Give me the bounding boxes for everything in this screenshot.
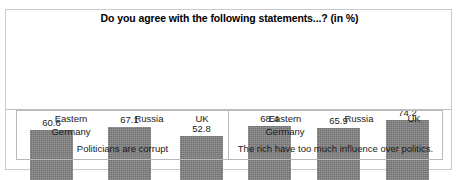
statement-label-rich-influence: The rich have too much influence over po… (229, 143, 442, 154)
category-table: Eastern Germany Russia UK Politicians ar… (16, 110, 443, 160)
table-half-rich-influence: Eastern Germany Russia UK The rich have … (229, 111, 442, 159)
country-label-line2: Germany (245, 126, 325, 139)
country-label-line1: UK (389, 113, 439, 126)
country-label-line1: Eastern (245, 113, 325, 126)
country-cell-uk: UK (389, 113, 439, 139)
country-label-row: Eastern Germany Russia UK (17, 113, 228, 139)
country-cell-uk: UK (177, 113, 227, 139)
statement-label-politicians: Politicians are corrupt (17, 143, 228, 154)
country-cell-russia: Russia (319, 113, 399, 139)
table-half-politicians: Eastern Germany Russia UK Politicians ar… (17, 111, 229, 159)
country-cell-eastern-germany: Eastern Germany (245, 113, 325, 139)
country-label-line2: Germany (31, 126, 111, 139)
country-label-line1: UK (177, 113, 227, 126)
country-label-row: Eastern Germany Russia UK (229, 113, 442, 139)
country-label-line1: Russia (319, 113, 399, 126)
country-label-line1: Eastern (31, 113, 111, 126)
country-cell-eastern-germany: Eastern Germany (31, 113, 111, 139)
